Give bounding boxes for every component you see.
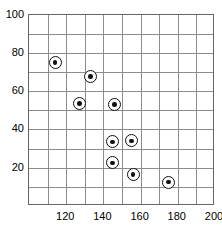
x-tick-label: 180 [168, 211, 186, 222]
gridline-horizontal [29, 34, 213, 35]
gridline-vertical [103, 15, 104, 205]
data-point [127, 168, 140, 181]
gridline-vertical [85, 15, 86, 205]
gridline-vertical [122, 15, 123, 205]
data-point [108, 98, 121, 111]
gridline-vertical [159, 15, 160, 205]
gridline-horizontal [29, 53, 213, 54]
gridline-vertical [48, 15, 49, 205]
y-tick-label: 60 [0, 85, 24, 96]
gridline-horizontal [29, 129, 213, 130]
x-tick-label: 140 [93, 211, 111, 222]
gridline-vertical [178, 15, 179, 205]
x-tick-label: 160 [130, 211, 148, 222]
scatter-chart: 10080604020 120140160180200 [0, 0, 222, 226]
y-tick-label: 80 [0, 46, 24, 57]
gridline-horizontal [29, 168, 213, 169]
data-point [49, 56, 62, 69]
gridline-horizontal [29, 91, 213, 92]
data-point [73, 97, 86, 110]
gridline-horizontal [29, 187, 213, 188]
gridlines [29, 15, 213, 205]
gridline-horizontal [29, 110, 213, 111]
x-tick-label: 120 [56, 211, 74, 222]
y-tick-label: 100 [0, 8, 24, 19]
gridline-horizontal [29, 149, 213, 150]
gridline-vertical [196, 15, 197, 205]
gridline-vertical [141, 15, 142, 205]
data-point [162, 176, 175, 189]
y-tick-label: 20 [0, 161, 24, 172]
y-tick-label: 40 [0, 123, 24, 134]
x-tick-label: 200 [205, 211, 222, 222]
gridline-horizontal [29, 72, 213, 73]
plot-area [28, 14, 214, 206]
gridline-vertical [66, 15, 67, 205]
chart-title [0, 0, 222, 9]
